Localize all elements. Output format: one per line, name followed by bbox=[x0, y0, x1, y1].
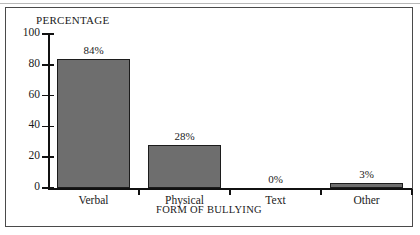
y-axis-tick bbox=[42, 33, 54, 35]
page-top-rule bbox=[0, 3, 420, 4]
bar-verbal bbox=[57, 59, 130, 188]
y-axis-tick bbox=[42, 126, 54, 128]
plot-area: PERCENTAGE 020406080100 84%28%0%3% Verba… bbox=[6, 8, 412, 226]
y-axis-tick-label: 80 bbox=[6, 58, 40, 70]
y-axis-tick-labels: 020406080100 bbox=[6, 8, 40, 226]
chart-figure-frame: PERCENTAGE 020406080100 84%28%0%3% Verba… bbox=[5, 7, 413, 227]
bar-value-label: 28% bbox=[139, 130, 230, 142]
y-axis-tick bbox=[42, 64, 54, 66]
bar-physical bbox=[148, 145, 221, 188]
bar-value-label: 3% bbox=[321, 168, 412, 180]
bar-value-label: 84% bbox=[48, 44, 139, 56]
y-axis-tick bbox=[42, 156, 54, 158]
x-axis-title: FORM OF BULLYING bbox=[6, 204, 412, 215]
y-axis-tick-label: 100 bbox=[6, 27, 40, 39]
y-axis-tick-label: 60 bbox=[6, 89, 40, 101]
bar-value-label: 0% bbox=[230, 173, 321, 185]
y-axis-line bbox=[48, 34, 50, 189]
y-axis-tick bbox=[42, 187, 54, 189]
bar-other bbox=[330, 183, 403, 188]
y-axis-tick bbox=[42, 95, 54, 97]
y-axis-tick-label: 20 bbox=[6, 150, 40, 162]
y-axis-tick-label: 0 bbox=[6, 181, 40, 193]
y-axis-tick-label: 40 bbox=[6, 119, 40, 131]
y-axis-title: PERCENTAGE bbox=[36, 14, 110, 26]
